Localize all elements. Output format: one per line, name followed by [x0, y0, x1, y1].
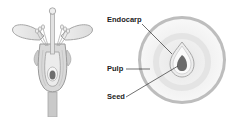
flower-stalk — [48, 92, 57, 117]
fruit-cross-section — [138, 16, 226, 104]
label-seed: Seed — [107, 93, 125, 101]
flower-ovule — [50, 71, 56, 80]
diagram-canvas: Endocarp Pulp Seed — [0, 0, 232, 117]
flower-section — [13, 8, 93, 117]
label-endocarp: Endocarp — [107, 16, 142, 24]
flower-style — [51, 14, 55, 54]
flower-stigma — [49, 8, 55, 14]
label-pulp: Pulp — [107, 65, 123, 73]
